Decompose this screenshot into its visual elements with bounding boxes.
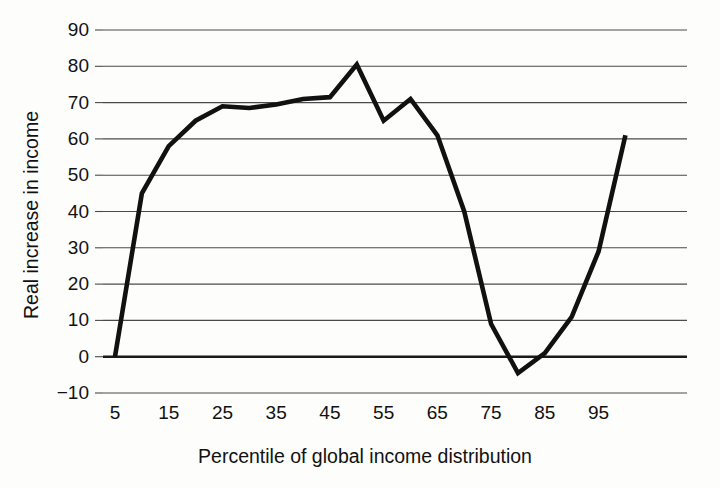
data-series-line — [115, 64, 625, 373]
x-tick-label-45: 45 — [319, 402, 340, 423]
chart-figure: −100102030405060708090 51525354555657585… — [0, 0, 720, 488]
x-tick-label-15: 15 — [158, 402, 179, 423]
y-tick-label-80: 80 — [68, 55, 89, 76]
y-tick-label-40: 40 — [68, 201, 89, 222]
x-axis-title: Percentile of global income distribution — [198, 445, 532, 467]
gridlines-group — [103, 30, 687, 393]
x-tick-label-85: 85 — [534, 402, 555, 423]
tick-marks-group — [95, 30, 103, 393]
x-tick-label-55: 55 — [373, 402, 394, 423]
x-tick-label-65: 65 — [427, 402, 448, 423]
y-tick-label-10: 10 — [68, 309, 89, 330]
y-tick-labels-group: −100102030405060708090 — [57, 19, 89, 403]
x-tick-label-35: 35 — [266, 402, 287, 423]
y-tick-label-30: 30 — [68, 237, 89, 258]
x-tick-label-25: 25 — [212, 402, 233, 423]
x-tick-label-75: 75 — [481, 402, 502, 423]
y-axis-title: Real increase in income — [20, 111, 42, 319]
x-tick-labels-group: 5152535455565758595 — [110, 402, 609, 423]
x-tick-label-95: 95 — [588, 402, 609, 423]
y-tick-label-50: 50 — [68, 164, 89, 185]
y-tick-label-60: 60 — [68, 128, 89, 149]
x-tick-label-5: 5 — [110, 402, 121, 423]
y-tick-label-20: 20 — [68, 273, 89, 294]
y-tick-label-90: 90 — [68, 19, 89, 40]
chart-canvas: −100102030405060708090 51525354555657585… — [0, 0, 720, 488]
y-tick-label--10: −10 — [57, 382, 89, 403]
y-tick-label-70: 70 — [68, 92, 89, 113]
y-tick-label-0: 0 — [78, 346, 89, 367]
